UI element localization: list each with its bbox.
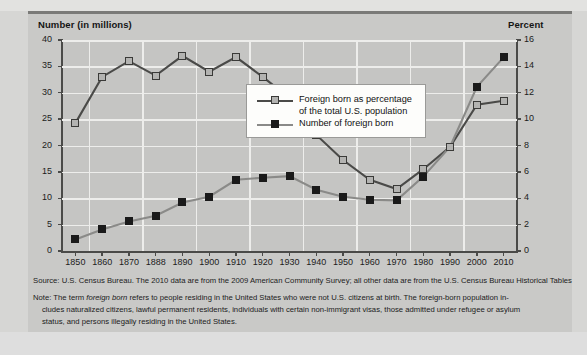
right-tick-label: 0 (524, 245, 544, 255)
bottom-band (0, 332, 587, 355)
data-point-marker (98, 73, 106, 81)
data-point-marker (500, 97, 508, 105)
x-tick (209, 252, 210, 256)
source-note: Source: U.S. Census Bureau. The 2010 dat… (33, 277, 572, 286)
x-tick-label: 2010 (484, 257, 524, 267)
data-point-marker (339, 193, 347, 201)
right-tick (517, 250, 521, 251)
data-point-marker (286, 172, 294, 180)
data-point-marker (366, 176, 374, 184)
legend-label-percent-line1: Foreign born as percentage (299, 94, 412, 104)
right-tick (517, 171, 521, 172)
left-tick-label: 35 (32, 60, 52, 70)
data-point-marker (419, 173, 427, 181)
left-tick-label: 5 (32, 219, 52, 229)
legend-swatch-number (271, 120, 279, 128)
right-tick-label: 16 (524, 34, 544, 44)
right-tick (517, 39, 521, 40)
right-tick (517, 118, 521, 119)
right-tick-label: 10 (524, 113, 544, 123)
right-tick-label: 6 (524, 166, 544, 176)
data-point-marker (259, 73, 267, 81)
chart-legend[interactable]: Foreign born as percentage of the total … (246, 84, 426, 138)
right-tick-label: 12 (524, 87, 544, 97)
note-line-3: status, and persons illegally residing i… (42, 318, 237, 327)
top-band (0, 0, 587, 11)
chart-page: Number (in millions) Percent 05101520253… (0, 0, 587, 355)
x-tick (75, 252, 76, 256)
data-point-marker (152, 72, 160, 80)
x-tick (503, 252, 504, 256)
data-point-marker (71, 235, 79, 243)
right-tick-label: 8 (524, 140, 544, 150)
x-tick (396, 252, 397, 256)
data-point-marker (393, 185, 401, 193)
x-tick (128, 252, 129, 256)
legend-swatch-percent (271, 96, 279, 104)
left-tick-label: 15 (32, 166, 52, 176)
note-line-1: Note: The term foreign born refers to pe… (33, 294, 509, 303)
right-tick (517, 145, 521, 146)
right-tick-label: 2 (524, 219, 544, 229)
data-point-marker (393, 196, 401, 204)
left-tick-label: 30 (32, 87, 52, 97)
note-prefix: Note: The term (33, 293, 86, 302)
x-tick (423, 252, 424, 256)
data-point-marker (366, 196, 374, 204)
x-tick (155, 252, 156, 256)
data-point-marker (500, 53, 508, 61)
data-point-marker (178, 52, 186, 60)
left-tick-label: 40 (32, 34, 52, 44)
x-tick (182, 252, 183, 256)
data-point-marker (205, 193, 213, 201)
x-tick (342, 252, 343, 256)
data-point-marker (98, 225, 106, 233)
data-point-marker (312, 186, 320, 194)
data-point-marker (205, 68, 213, 76)
left-axis-title: Number (in millions) (38, 19, 132, 30)
x-tick (369, 252, 370, 256)
x-tick (476, 252, 477, 256)
right-tick (517, 224, 521, 225)
x-tick (235, 252, 236, 256)
x-tick (262, 252, 263, 256)
x-tick (449, 252, 450, 256)
right-tick (517, 198, 521, 199)
data-point-marker (178, 198, 186, 206)
data-point-marker (259, 174, 267, 182)
data-point-marker (419, 165, 427, 173)
right-tick-label: 4 (524, 192, 544, 202)
x-tick (101, 252, 102, 256)
data-point-marker (446, 143, 454, 151)
data-point-marker (152, 212, 160, 220)
left-tick-label: 20 (32, 140, 52, 150)
right-tick (517, 66, 521, 67)
x-tick (316, 252, 317, 256)
data-point-marker (125, 217, 133, 225)
note-italic-term: foreign born (86, 293, 127, 302)
data-point-marker (473, 101, 481, 109)
left-tick-label: 25 (32, 113, 52, 123)
data-point-marker (125, 57, 133, 65)
data-point-marker (232, 176, 240, 184)
data-point-marker (339, 156, 347, 164)
note-suffix: refers to people residing in the United … (127, 293, 508, 302)
left-tick-label: 0 (32, 245, 52, 255)
right-tick-label: 14 (524, 60, 544, 70)
left-tick-label: 10 (32, 192, 52, 202)
right-tick (517, 92, 521, 93)
right-axis-title: Percent (508, 19, 544, 30)
legend-label-number: Number of foreign born (299, 118, 393, 128)
data-point-marker (473, 83, 481, 91)
x-tick (289, 252, 290, 256)
legend-label-percent-line2: of the total U.S. population (299, 106, 407, 116)
note-line-2: cludes naturalized citizens, lawful perm… (42, 306, 520, 315)
data-point-marker (232, 53, 240, 61)
data-point-marker (71, 119, 79, 127)
